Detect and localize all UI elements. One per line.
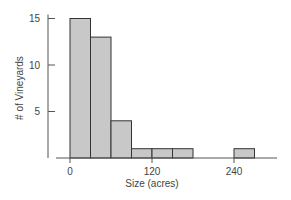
x-axis-title: Size (acres): [125, 178, 178, 189]
histogram-bar: [91, 37, 112, 158]
histogram-bar: [234, 149, 255, 158]
histogram-bar: [132, 149, 153, 158]
x-axis: 0120240: [56, 158, 277, 177]
histogram-bars: [70, 19, 255, 159]
histogram-bar: [111, 121, 132, 158]
y-axis: 51015: [29, 13, 55, 158]
histogram-bar: [152, 149, 173, 158]
histogram-bar: [70, 19, 91, 159]
x-tick-label: 120: [144, 166, 161, 177]
x-tick-label: 240: [226, 166, 243, 177]
y-tick-label: 10: [29, 60, 41, 71]
y-tick-label: 15: [29, 13, 41, 24]
y-tick-label: 5: [34, 106, 40, 117]
x-tick-label: 0: [67, 166, 73, 177]
y-axis-title: # of Vineyards: [14, 56, 25, 120]
histogram-bar: [173, 149, 194, 158]
histogram-chart: 51015 0120240 Size (acres) # of Vineyard…: [0, 0, 291, 200]
